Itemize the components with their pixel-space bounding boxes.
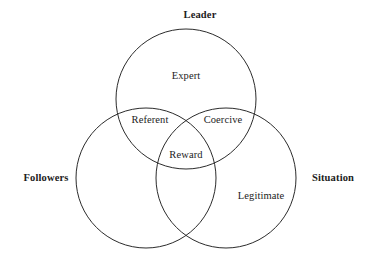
circle-followers: [76, 108, 216, 248]
venn-diagram: Leader Followers Situation Expert Refere…: [0, 0, 371, 267]
region-label-reward: Reward: [169, 150, 202, 161]
region-label-referent: Referent: [132, 115, 169, 126]
region-label-expert: Expert: [172, 71, 201, 82]
set-label-followers: Followers: [23, 173, 68, 184]
region-label-legitimate: Legitimate: [238, 191, 284, 202]
venn-circles-canvas: [0, 0, 371, 267]
circle-situation: [156, 108, 296, 248]
region-label-coercive: Coercive: [204, 115, 243, 126]
set-label-situation: Situation: [312, 173, 354, 184]
set-label-leader: Leader: [184, 10, 217, 21]
